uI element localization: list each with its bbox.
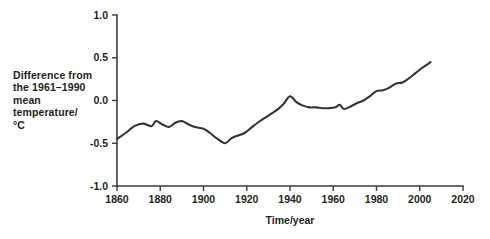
y-tick-label: 0.0 [93,94,108,106]
x-tick-label: 1980 [365,193,389,205]
x-tick-label: 1940 [278,193,302,205]
x-tick-label: 1860 [105,193,129,205]
x-tick-label: 1920 [235,193,259,205]
x-tick-label: 1880 [149,193,173,205]
y-tick-label: 0.5 [93,51,108,63]
chart-figure: Difference from the 1961–1990 mean tempe… [0,0,490,239]
x-tick-label: 2000 [408,193,432,205]
y-tick-label: 1.0 [93,9,108,21]
y-axis-ticks: -1.0-0.50.00.51.0 [90,9,117,192]
x-axis-title: Time/year [266,214,315,226]
temperature-anomaly-line [117,62,431,143]
y-tick-label: -1.0 [90,180,108,192]
y-tick-label: -0.5 [90,137,108,149]
x-tick-label: 2020 [451,193,475,205]
x-tick-label: 1960 [322,193,346,205]
x-tick-label: 1900 [192,193,216,205]
axis-lines [117,15,463,186]
line-chart-plot: -1.0-0.50.00.51.0 1860188019001920194019… [0,0,490,239]
x-axis-ticks: 186018801900192019401960198020002020 [105,186,475,205]
